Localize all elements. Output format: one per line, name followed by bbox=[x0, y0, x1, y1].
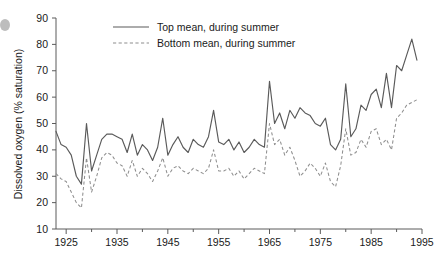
chart-container: 102030405060708090 192519351945195519651… bbox=[0, 0, 436, 261]
x-tick-label: 1925 bbox=[54, 236, 78, 248]
y-tick-labels: 102030405060708090 bbox=[36, 12, 48, 235]
y-tick-label: 50 bbox=[36, 117, 48, 129]
x-tick-label: 1965 bbox=[258, 236, 282, 248]
y-tick-label: 20 bbox=[36, 196, 48, 208]
x-tick-label: 1945 bbox=[156, 236, 180, 248]
y-tick-label: 90 bbox=[36, 12, 48, 24]
legend-label: Bottom mean, during summer bbox=[157, 37, 296, 49]
x-tick-label: 1975 bbox=[309, 236, 333, 248]
x-tick-label: 1955 bbox=[207, 236, 231, 248]
y-tick-label: 60 bbox=[36, 91, 48, 103]
y-tick-label: 10 bbox=[36, 223, 48, 235]
y-axis-title: Dissolved oxygen (% saturation) bbox=[12, 49, 24, 200]
x-tick-label: 1985 bbox=[359, 236, 383, 248]
page-edge-artifact bbox=[0, 19, 10, 31]
x-tick-label: 1935 bbox=[105, 236, 129, 248]
y-tick-label: 30 bbox=[36, 170, 48, 182]
y-tick-label: 40 bbox=[36, 143, 48, 155]
legend-label: Top mean, during summer bbox=[157, 21, 279, 33]
x-tick-label: 1995 bbox=[410, 236, 434, 248]
y-tick-label: 80 bbox=[36, 38, 48, 50]
y-tick-label: 70 bbox=[36, 64, 48, 76]
dissolved-oxygen-line-chart: 102030405060708090 192519351945195519651… bbox=[0, 0, 436, 261]
